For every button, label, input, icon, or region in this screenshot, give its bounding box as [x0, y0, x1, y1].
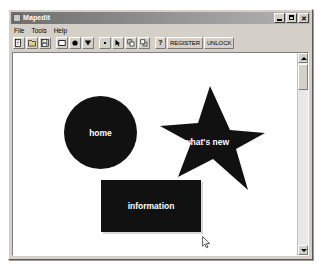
register-button[interactable]: REGISTER: [167, 37, 203, 49]
rectangle-hotspot-label: information: [128, 201, 175, 211]
circle-hotspot[interactable]: home: [64, 96, 137, 169]
close-button[interactable]: ✕: [298, 13, 309, 23]
save-file-button[interactable]: [39, 37, 51, 49]
rectangle-icon: [58, 39, 66, 47]
new-document-icon: [15, 39, 23, 47]
open-file-button[interactable]: [26, 37, 38, 49]
back-order-button[interactable]: [138, 37, 150, 49]
menu-item-tools[interactable]: Tools: [31, 26, 46, 35]
new-file-button[interactable]: [13, 37, 25, 49]
polygon-tool-button[interactable]: [82, 37, 94, 49]
toolbar-action-group: ? REGISTER UNLOCK: [155, 37, 234, 49]
vertical-scrollbar[interactable]: [297, 53, 308, 255]
arrow-tool-button[interactable]: [112, 37, 124, 49]
star-hotspot[interactable]: what's new: [158, 86, 266, 191]
unlock-button[interactable]: UNLOCK: [204, 37, 234, 49]
scroll-up-button[interactable]: [298, 53, 308, 63]
toolbar: ? REGISTER UNLOCK: [12, 35, 309, 51]
circle-hotspot-label: home: [89, 128, 112, 138]
application-window: Mapedit ✕ File Tools Help: [8, 9, 313, 260]
toolbar-shape-group: [56, 37, 94, 49]
maximize-icon: [289, 15, 294, 20]
window-title: Mapedit: [23, 13, 274, 23]
maximize-button[interactable]: [286, 13, 297, 23]
floppy-disk-icon: [41, 39, 49, 47]
rectangle-hotspot[interactable]: information: [101, 180, 201, 232]
front-order-button[interactable]: [125, 37, 137, 49]
mouse-pointer: [202, 236, 211, 249]
open-folder-icon: [28, 39, 36, 47]
bring-to-front-icon: [127, 39, 135, 47]
circle-tool-button[interactable]: [69, 37, 81, 49]
scroll-thumb[interactable]: [298, 64, 308, 90]
help-button[interactable]: ?: [155, 37, 166, 49]
rectangle-tool-button[interactable]: [56, 37, 68, 49]
minimize-button[interactable]: [274, 13, 285, 23]
menu-bar: File Tools Help: [12, 25, 309, 35]
scroll-down-arrow-icon: [301, 249, 307, 252]
window-controls: ✕: [274, 13, 309, 23]
point-tool-button[interactable]: [99, 37, 111, 49]
title-bar[interactable]: Mapedit ✕: [11, 12, 310, 24]
scroll-down-button[interactable]: [298, 245, 308, 255]
app-icon: [13, 14, 21, 22]
menu-item-help[interactable]: Help: [54, 26, 67, 35]
menu-item-file[interactable]: File: [14, 26, 24, 35]
image-map-canvas[interactable]: home what's new information: [13, 53, 297, 255]
point-icon: [101, 39, 109, 47]
toolbar-edit-group: [99, 37, 150, 49]
minimize-icon: [277, 19, 282, 21]
close-icon: ✕: [299, 14, 308, 22]
client-area: home what's new information: [12, 52, 309, 256]
circle-icon: [71, 39, 79, 47]
scroll-up-arrow-icon: [301, 57, 307, 60]
arrow-icon: [114, 39, 122, 47]
star-hotspot-label: what's new: [184, 137, 229, 147]
polygon-icon: [84, 39, 92, 47]
send-to-back-icon: [140, 39, 148, 47]
toolbar-file-group: [13, 37, 51, 49]
